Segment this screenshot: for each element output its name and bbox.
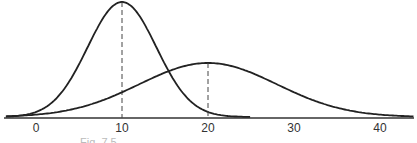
figure-caption: Fig. 7.5 — [80, 136, 117, 143]
tick-label: 30 — [287, 121, 301, 135]
tick-label: 10 — [115, 121, 129, 135]
narrow-normal-curve — [6, 2, 250, 117]
axis-tick-labels: 010203040 — [33, 121, 387, 135]
tick-label: 0 — [33, 121, 40, 135]
tick-label: 40 — [373, 121, 387, 135]
tick-label: 20 — [201, 121, 215, 135]
curves — [6, 2, 414, 118]
wide-normal-curve — [6, 63, 414, 116]
normal-curves-figure: 010203040 Fig. 7.5 — [0, 0, 417, 143]
